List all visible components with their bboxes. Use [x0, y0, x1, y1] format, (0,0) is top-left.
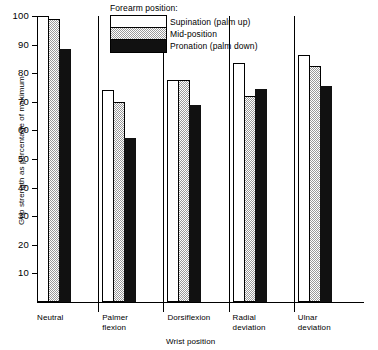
legend-swatch-supination: [111, 16, 166, 28]
legend-item: Pronation (palm down): [111, 40, 166, 52]
legend-label: Pronation (palm down): [170, 41, 258, 51]
x-axis-line: [37, 302, 364, 303]
legend-swatch-box: Supination (palm up)Mid-positionPronatio…: [110, 15, 167, 53]
y-axis-tick-label: 10: [1, 267, 29, 278]
legend-swatch-pronation: [111, 40, 166, 52]
x-axis-category-label: Dorsiflexion: [167, 313, 230, 323]
legend-swatch-mid: [111, 28, 166, 40]
plot-area: [37, 16, 363, 302]
y-axis-tick-label: 30: [1, 210, 29, 221]
y-axis-tick-label: 60: [1, 124, 29, 135]
legend-item: Mid-position: [111, 28, 166, 40]
chart-figure: Grip strength as percentage of maximum 1…: [0, 0, 378, 350]
bar: [59, 49, 71, 302]
bar-group: [233, 16, 298, 302]
y-axis-tick-label: 50: [1, 153, 29, 164]
y-axis-tick-label: 70: [1, 96, 29, 107]
group-separator: [294, 16, 295, 312]
x-axis-category-label: Neutral: [37, 313, 100, 323]
legend-label: Supination (palm up): [170, 17, 250, 27]
legend-title: Forearm position:: [110, 3, 178, 13]
group-separator: [163, 16, 164, 312]
x-axis-category-label: Palmer flexion: [102, 313, 165, 333]
bar: [255, 89, 267, 302]
group-separator: [229, 16, 230, 312]
legend-item: Supination (palm up): [111, 16, 166, 28]
bar: [320, 86, 332, 302]
bar: [189, 105, 201, 302]
group-separator: [98, 16, 99, 312]
x-axis-category-label: Radial deviation: [233, 313, 296, 333]
x-axis-category-label: Ulnar deviation: [298, 313, 361, 333]
y-axis-tick-label: 80: [1, 67, 29, 78]
y-axis-tick-label: 90: [1, 39, 29, 50]
bar-group: [102, 16, 167, 302]
y-axis-tick-label: 40: [1, 182, 29, 193]
y-axis-tick-label: 20: [1, 239, 29, 250]
legend-label: Mid-position: [170, 29, 217, 39]
bar-group: [298, 16, 363, 302]
bar-group: [167, 16, 232, 302]
bar: [124, 138, 136, 302]
legend: Forearm position: Supination (palm up)Mi…: [110, 3, 178, 53]
y-axis-tick-label: 100: [1, 10, 29, 21]
bar-group: [37, 16, 102, 302]
x-axis-title: Wrist position: [166, 337, 215, 346]
